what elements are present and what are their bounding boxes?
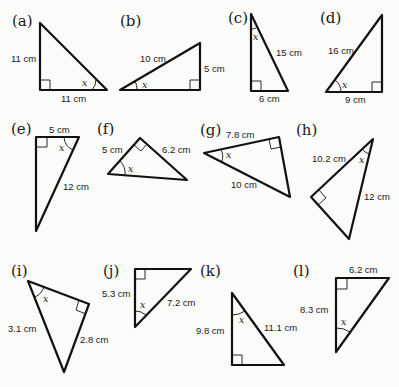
problem-label: (l): [293, 262, 310, 280]
triangle-a: (a) x 11 cm 11 cm: [11, 12, 107, 104]
problem-label: (e): [11, 120, 32, 138]
right-angle-marker: [40, 80, 50, 90]
angle-x: x: [140, 299, 146, 310]
side-label: 6.2 cm: [349, 264, 378, 275]
angle-x: x: [253, 31, 259, 42]
side-label: 5.3 cm: [102, 288, 131, 299]
side-label: 10.2 cm: [312, 153, 346, 164]
problem-label: (c): [228, 9, 248, 27]
side-label: 5 cm: [49, 124, 70, 135]
side-label: 2.8 cm: [80, 334, 109, 345]
problem-label: (f): [97, 120, 114, 138]
side-label: 10 cm: [231, 179, 257, 190]
problem-label: (g): [200, 121, 221, 139]
problem-label: (d): [320, 9, 341, 27]
triangle-b: (b) x 10 cm 5 cm: [120, 12, 225, 90]
right-angle-marker: [36, 137, 47, 147]
triangle-l: (l) x 8.3 cm 6.2 cm: [293, 262, 389, 352]
triangle-e: (e) x 5 cm 12 cm: [11, 120, 89, 231]
angle-x: x: [342, 79, 348, 90]
angle-x: x: [43, 293, 49, 304]
angle-x: x: [128, 163, 134, 174]
side-label: 11 cm: [61, 93, 86, 104]
right-angle-marker: [318, 190, 326, 205]
triangle-h: (h) x 10.2 cm 12 cm: [296, 121, 390, 239]
problem-label: (j): [103, 262, 119, 280]
triangle-k: (k) x 9.8 cm 11.1 cm: [196, 262, 297, 365]
triangle-j: (j) x 5.3 cm 7.2 cm: [102, 262, 196, 327]
triangles-diagram: (a) x 11 cm 11 cm (b) x 10 cm 5 cm (c) x…: [0, 0, 399, 387]
right-angle-marker: [372, 82, 382, 92]
problem-label: (h): [296, 121, 317, 139]
problem-label: (a): [12, 12, 33, 30]
side-label: 10 cm: [140, 53, 166, 64]
side-label: 6.2 cm: [162, 144, 191, 155]
side-label: 15 cm: [276, 47, 302, 58]
triangle-c: (c) x 15 cm 6 cm: [228, 9, 302, 104]
angle-arc: [335, 80, 341, 92]
angle-x: x: [82, 77, 88, 88]
side-label: 5 cm: [102, 144, 123, 155]
side-label: 11.1 cm: [264, 322, 297, 333]
side-label: 3.1 cm: [8, 323, 37, 334]
problem-label: (b): [120, 12, 141, 30]
triangle-d: (d) x 16 cm 9 cm: [320, 9, 382, 105]
right-angle-marker: [251, 81, 261, 91]
problem-label: (k): [200, 262, 221, 280]
side-label: 7.2 cm: [167, 297, 196, 308]
right-angle-marker: [232, 355, 242, 365]
side-label: 6 cm: [259, 93, 280, 104]
side-label: 11 cm: [11, 53, 36, 64]
angle-arc: [135, 311, 146, 315]
triangle-shape: [120, 43, 200, 90]
worksheet-figure: (a) x 11 cm 11 cm (b) x 10 cm 5 cm (c) x…: [0, 0, 399, 387]
angle-x: x: [341, 316, 347, 327]
right-angle-marker: [135, 269, 145, 279]
side-label: 8.3 cm: [300, 304, 329, 315]
angle-arc: [221, 149, 223, 162]
side-label: 9 cm: [345, 94, 366, 105]
triangle-g: (g) x 7.8 cm 10 cm: [200, 121, 290, 197]
angle-arc: [135, 81, 137, 90]
angle-arc: [336, 328, 350, 332]
angle-x: x: [359, 154, 365, 165]
side-label: 16 cm: [328, 45, 354, 56]
right-angle-marker: [190, 80, 200, 90]
angle-x: x: [142, 79, 148, 90]
angle-arc: [120, 161, 125, 175]
angle-x: x: [59, 142, 65, 153]
triangle-shape: [28, 281, 89, 372]
right-angle-marker: [336, 278, 347, 289]
side-label: 5 cm: [204, 63, 225, 74]
angle-x: x: [239, 314, 245, 325]
angle-arc: [64, 137, 73, 150]
side-label: 7.8 cm: [226, 129, 255, 140]
angle-arc: [92, 79, 96, 90]
side-label: 12 cm: [364, 191, 390, 202]
angle-x: x: [226, 149, 232, 160]
side-label: 12 cm: [63, 181, 89, 192]
right-angle-marker: [134, 144, 147, 151]
problem-label: (i): [11, 262, 28, 280]
triangle-i: (i) x 3.1 cm 2.8 cm: [8, 262, 109, 372]
triangle-f: (f) x 5 cm 6.2 cm: [97, 120, 191, 180]
side-label: 9.8 cm: [196, 325, 225, 336]
